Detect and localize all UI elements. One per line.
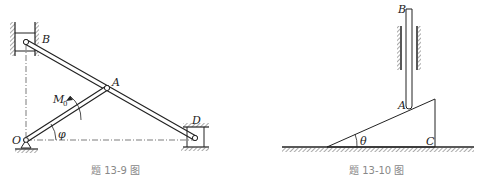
label-b: B [41,33,50,46]
label-o: O [12,134,21,147]
label-d: D [191,114,201,127]
figure-13-10: B A θ C 题 13-10 图 [282,3,474,176]
wedge [327,99,435,147]
caption-13-9: 题 13-9 图 [91,165,140,176]
crank-oa [26,88,107,140]
label-phi: φ [58,128,66,141]
ground [282,147,474,152]
pivot-b [23,39,28,44]
label-m0-subscript: 0 [63,100,67,108]
label-b: B [397,3,406,16]
pivot-a [104,85,109,90]
caption-13-10: 题 13-10 图 [349,165,404,176]
pivot-d [192,135,197,140]
rod-ab [406,9,412,109]
label-c: C [426,135,435,148]
label-a: A [397,99,406,112]
label-theta: θ [360,135,367,148]
figure-13-9: B A M 0 O φ D 题 13-9 图 [10,22,209,176]
vertical-guide-b [10,22,39,56]
label-a: A [111,76,120,89]
